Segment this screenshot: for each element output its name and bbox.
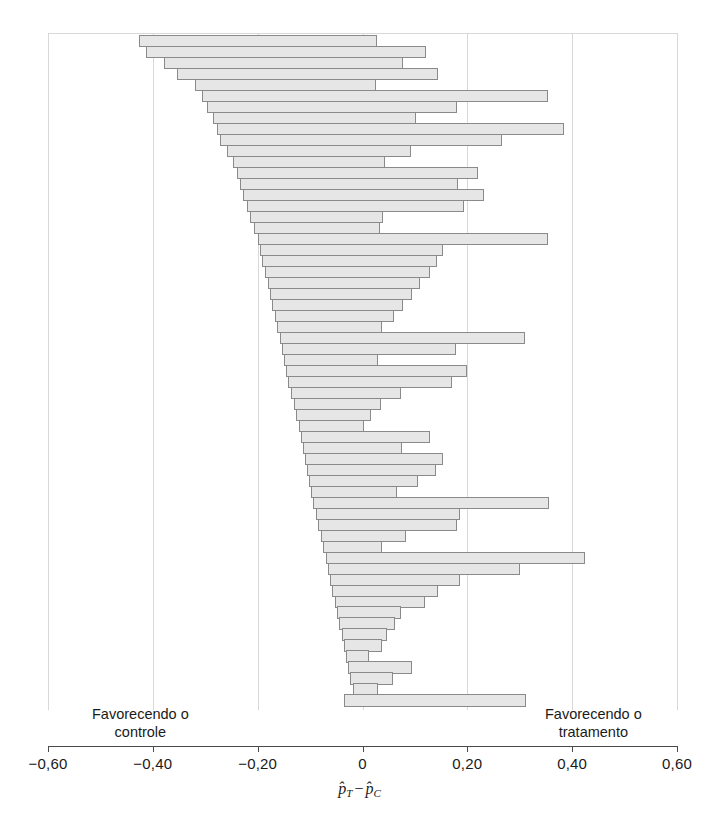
x-tick-label-2: −0,20 xyxy=(238,755,277,772)
gridline-5 xyxy=(572,33,573,710)
phat-c: p̂C xyxy=(365,780,380,799)
x-tick-6 xyxy=(677,746,678,752)
x-tick-4 xyxy=(467,746,468,752)
x-tick-3 xyxy=(363,746,364,752)
x-tick-1 xyxy=(153,746,154,752)
bar-interval xyxy=(344,694,526,706)
x-tick-0 xyxy=(48,746,49,752)
x-tick-label-5: 0,40 xyxy=(557,755,587,772)
x-tick-5 xyxy=(572,746,573,752)
x-tick-label-3: 0 xyxy=(358,755,367,772)
annotation-favor-treatment-line1: Favorecendo o xyxy=(545,705,642,723)
minus-operator: − xyxy=(352,780,365,797)
funnel-confidence-interval-chart: Favorecendo o controle Favorecendo o tra… xyxy=(0,0,719,825)
annotation-favor-control: Favorecendo o controle xyxy=(92,705,189,741)
phat-t-symbol: p̂ xyxy=(338,780,346,797)
phat-c-subscript: C xyxy=(373,787,380,799)
x-tick-label-0: −0,60 xyxy=(29,755,68,772)
gridline-6 xyxy=(677,33,678,710)
plot-area xyxy=(48,33,677,710)
annotation-favor-control-line2: controle xyxy=(92,723,189,741)
phat-t-subscript: T xyxy=(346,787,352,799)
x-axis-label: p̂T−p̂C xyxy=(0,780,719,799)
phat-c-symbol: p̂ xyxy=(365,780,373,797)
annotation-favor-treatment-line2: tratamento xyxy=(545,723,642,741)
annotation-favor-treatment: Favorecendo o tratamento xyxy=(545,705,642,741)
gridline-1 xyxy=(153,33,154,710)
x-tick-label-1: −0,40 xyxy=(133,755,172,772)
phat-t: p̂T xyxy=(338,780,352,799)
gridline-0 xyxy=(48,33,49,710)
x-tick-label-4: 0,20 xyxy=(452,755,482,772)
x-tick-label-6: 0,60 xyxy=(662,755,692,772)
x-tick-2 xyxy=(258,746,259,752)
annotation-favor-control-line1: Favorecendo o xyxy=(92,705,189,723)
